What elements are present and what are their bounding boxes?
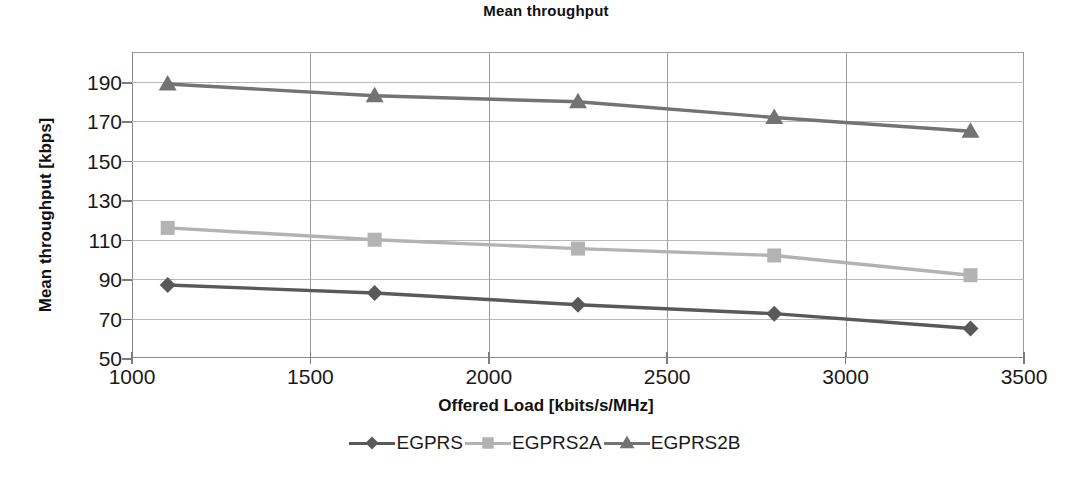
legend: EGPRSEGPRS2AEGPRS2B — [0, 432, 1092, 454]
y-axis-tick-mark — [122, 358, 132, 360]
x-axis-tick-label: 1000 — [109, 366, 156, 387]
y-axis-title: Mean throughput [kbps] — [36, 65, 56, 365]
gridline-horizontal — [132, 82, 1024, 83]
x-axis-tick-label: 2500 — [644, 366, 691, 387]
legend-marker-triangle-icon — [616, 432, 638, 454]
y-axis-tick-label: 190 — [66, 72, 122, 93]
legend-label: EGPRS2A — [511, 432, 604, 454]
gridline-vertical — [667, 52, 668, 358]
y-axis-tick-mark — [122, 240, 132, 242]
gridline-horizontal — [132, 161, 1024, 162]
gridline-vertical — [310, 52, 311, 358]
chart-title: Mean throughput — [0, 2, 1092, 19]
gridline-horizontal — [132, 240, 1024, 241]
gridline-vertical — [489, 52, 490, 358]
x-axis-tick-mark — [310, 352, 312, 364]
legend-item-egprs[interactable]: EGPRS — [349, 432, 465, 454]
x-axis-tick-mark — [1023, 352, 1025, 364]
legend-item-egprs2a[interactable]: EGPRS2A — [465, 432, 604, 454]
y-axis-tick-mark — [122, 82, 132, 84]
legend-item-egprs2b[interactable]: EGPRS2B — [604, 432, 743, 454]
x-axis-tick-mark — [488, 352, 490, 364]
y-axis-tick-label: 90 — [66, 269, 122, 290]
y-axis-tick-mark — [122, 319, 132, 321]
x-axis-tick-label: 1500 — [287, 366, 334, 387]
y-axis-tick-label: 110 — [66, 229, 122, 250]
gridline-horizontal — [132, 121, 1024, 122]
x-axis-tick-label: 3000 — [822, 366, 869, 387]
legend-label: EGPRS2B — [650, 432, 743, 454]
legend-swatch-icon — [349, 434, 395, 452]
chart-container: Mean throughput 507090110130150170190 10… — [0, 0, 1092, 486]
y-axis-tick-label: 150 — [66, 150, 122, 171]
plot-area — [132, 52, 1024, 358]
legend-swatch-icon — [465, 434, 511, 452]
gridline-horizontal — [132, 279, 1024, 280]
legend-marker-diamond-icon — [361, 432, 383, 454]
y-axis-tick-label: 70 — [66, 308, 122, 329]
y-axis-tick-mark — [122, 161, 132, 163]
gridline-vertical — [846, 52, 847, 358]
gridline-horizontal — [132, 200, 1024, 201]
y-axis-tick-mark — [122, 200, 132, 202]
x-axis-tick-label: 2000 — [465, 366, 512, 387]
x-axis-tick-mark — [845, 352, 847, 364]
y-axis-tick-mark — [122, 279, 132, 281]
x-axis-tick-mark — [666, 352, 668, 364]
y-axis-tick-label: 130 — [66, 190, 122, 211]
x-axis-title: Offered Load [kbits/s/MHz] — [0, 396, 1092, 416]
gridline-horizontal — [132, 319, 1024, 320]
y-axis-tick-mark — [122, 121, 132, 123]
legend-swatch-icon — [604, 434, 650, 452]
y-axis-tick-label: 170 — [66, 111, 122, 132]
legend-label: EGPRS — [395, 432, 465, 454]
legend-marker-square-icon — [477, 432, 499, 454]
x-axis-tick-label: 3500 — [1001, 366, 1048, 387]
